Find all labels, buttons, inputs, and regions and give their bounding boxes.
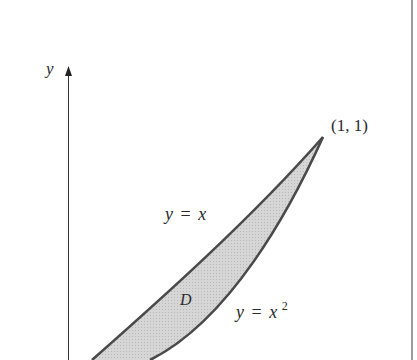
region-diagram: y (1, 1) y = x D y = x 2 [0, 0, 417, 360]
upper-curve-label: y = x [163, 204, 206, 224]
curve-y-equals-x [92, 137, 323, 360]
point-label: (1, 1) [331, 116, 368, 135]
region-d [92, 137, 323, 360]
y-axis-arrow-icon [65, 66, 72, 76]
lower-curve-label: y = x 2 [234, 299, 288, 322]
y-axis-label: y [44, 59, 54, 78]
region-label: D [179, 291, 192, 308]
